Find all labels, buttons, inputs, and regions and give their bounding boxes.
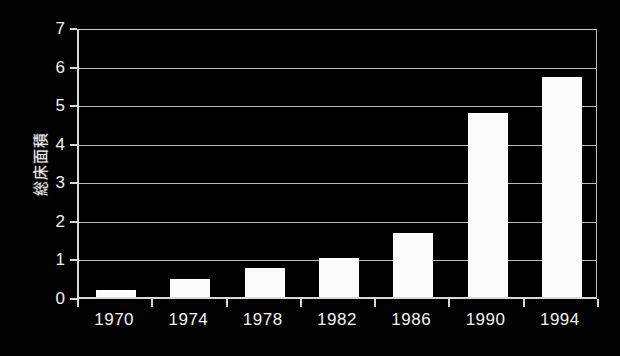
plot-right-border xyxy=(596,29,597,297)
bar-1990 xyxy=(468,113,508,297)
x-tick-label-1986: 1986 xyxy=(374,310,448,330)
gridline xyxy=(79,29,597,30)
y-tick-mark xyxy=(70,28,77,30)
y-tick-mark xyxy=(70,259,77,261)
x-tick-mark xyxy=(374,299,376,307)
gridline xyxy=(79,183,597,184)
bar-1970 xyxy=(96,290,136,297)
gridline xyxy=(79,68,597,69)
x-tick-label-1978: 1978 xyxy=(226,310,300,330)
x-tick-label-1982: 1982 xyxy=(300,310,374,330)
y-tick-mark xyxy=(70,144,77,146)
bar-1978 xyxy=(245,268,285,297)
gridline xyxy=(79,145,597,146)
bar-chart: 総床面積 01234567 19701974197819821986199019… xyxy=(0,0,620,356)
y-tick-mark xyxy=(70,182,77,184)
y-tick-mark xyxy=(70,67,77,69)
x-tick-mark xyxy=(597,299,599,307)
y-tick-mark xyxy=(70,221,77,223)
y-tick-label: 2 xyxy=(45,213,65,230)
x-tick-mark xyxy=(77,299,79,307)
x-tick-label-1970: 1970 xyxy=(77,310,151,330)
x-tick-label-1974: 1974 xyxy=(151,310,225,330)
x-tick-mark xyxy=(523,299,525,307)
y-tick-mark xyxy=(70,298,77,300)
bar-1974 xyxy=(170,279,210,297)
x-tick-mark xyxy=(448,299,450,307)
y-tick-label: 4 xyxy=(45,136,65,153)
y-tick-label: 7 xyxy=(45,20,65,37)
y-tick-label: 6 xyxy=(45,59,65,76)
y-tick-label: 0 xyxy=(45,290,65,307)
gridline xyxy=(79,106,597,107)
y-tick-mark xyxy=(70,105,77,107)
plot-area xyxy=(77,29,597,299)
bar-1982 xyxy=(319,258,359,297)
bar-1994 xyxy=(542,77,582,297)
bar-1986 xyxy=(393,233,433,297)
x-tick-mark xyxy=(151,299,153,307)
x-tick-mark xyxy=(300,299,302,307)
x-tick-mark xyxy=(226,299,228,307)
y-tick-label: 3 xyxy=(45,174,65,191)
x-tick-label-1990: 1990 xyxy=(448,310,522,330)
gridline xyxy=(79,222,597,223)
y-tick-label: 1 xyxy=(45,251,65,268)
y-tick-label: 5 xyxy=(45,97,65,114)
x-tick-label-1994: 1994 xyxy=(523,310,597,330)
